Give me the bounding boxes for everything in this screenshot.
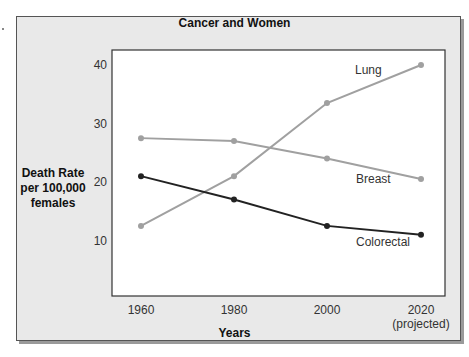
x-tick-sublabel: (projected): [392, 317, 449, 331]
x-axis-ticks: 1960198020002020(projected): [128, 303, 450, 331]
data-point: [138, 135, 144, 141]
x-tick-label: 2020: [408, 303, 435, 317]
data-point: [231, 138, 237, 144]
y-tick-label: 40: [94, 58, 108, 72]
data-point: [418, 62, 424, 68]
data-point: [231, 197, 237, 203]
series-label: Colorectal: [356, 235, 410, 249]
x-tick-label: 2000: [314, 303, 341, 317]
x-tick-label: 1980: [221, 303, 248, 317]
x-tick-label: 1960: [128, 303, 155, 317]
data-point: [418, 232, 424, 238]
y-tick-label: 30: [94, 117, 108, 131]
data-point: [231, 173, 237, 179]
data-point: [138, 173, 144, 179]
data-point: [138, 223, 144, 229]
series-label: Lung: [355, 63, 382, 77]
y-tick-label: 10: [94, 234, 108, 248]
data-point: [324, 223, 330, 229]
data-point: [324, 100, 330, 106]
data-point: [418, 176, 424, 182]
data-point: [324, 156, 330, 162]
series-label: Breast: [356, 172, 391, 186]
y-tick-label: 20: [94, 175, 108, 189]
line-chart: 10203040 1960198020002020(projected) Lun…: [0, 0, 469, 357]
y-axis-ticks: 10203040: [94, 58, 108, 248]
